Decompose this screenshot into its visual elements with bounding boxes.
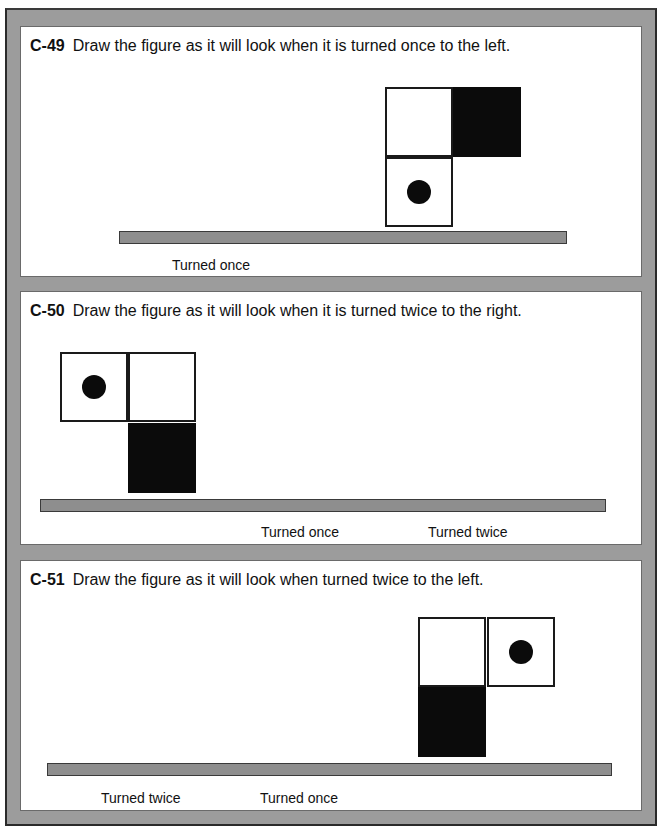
dot-square: [487, 617, 555, 687]
dot-square: [385, 157, 453, 227]
dot-square: [60, 352, 128, 422]
black-square: [128, 423, 196, 493]
problem-number: C-50: [30, 302, 65, 319]
dot-icon: [82, 375, 106, 399]
problem-c49-panel: C-49Draw the figure as it will look when…: [20, 26, 642, 277]
problem-number: C-51: [30, 571, 65, 588]
problem-c50-panel: C-50Draw the figure as it will look when…: [20, 291, 642, 545]
answer-label-turned-twice: Turned twice: [428, 524, 508, 540]
answer-label-turned-once: Turned once: [172, 257, 250, 273]
problem-instruction: Draw the figure as it will look when tur…: [73, 571, 484, 588]
white-square: [418, 617, 486, 687]
base-bar: [47, 763, 612, 776]
problem-instruction: Draw the figure as it will look when it …: [73, 302, 522, 319]
dot-icon: [407, 180, 431, 204]
white-square: [385, 87, 453, 157]
problem-instruction: Draw the figure as it will look when it …: [73, 37, 511, 54]
base-bar: [40, 499, 606, 512]
black-square: [453, 87, 521, 157]
answer-label-turned-once: Turned once: [261, 524, 339, 540]
base-bar: [119, 231, 567, 244]
dot-icon: [509, 640, 533, 664]
problem-c49-title: C-49Draw the figure as it will look when…: [30, 37, 510, 55]
problem-c50-title: C-50Draw the figure as it will look when…: [30, 302, 522, 320]
problem-c51-title: C-51Draw the figure as it will look when…: [30, 571, 484, 589]
white-square: [128, 352, 196, 422]
answer-label-turned-once: Turned once: [260, 790, 338, 806]
black-square: [418, 687, 486, 757]
problem-number: C-49: [30, 37, 65, 54]
answer-label-turned-twice: Turned twice: [101, 790, 181, 806]
problem-c51-panel: C-51Draw the figure as it will look when…: [20, 560, 642, 811]
